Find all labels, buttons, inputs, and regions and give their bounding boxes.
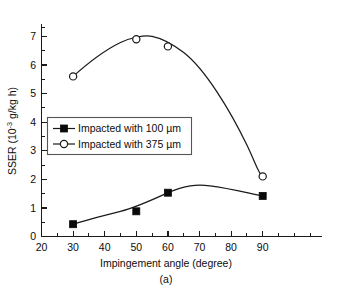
x-tick-label-20: 20	[36, 241, 48, 253]
x-tick-label-60: 60	[162, 241, 174, 253]
series-375um	[70, 36, 267, 180]
figure-panel-a: 0 1 2 3 4 5 6 7	[0, 0, 338, 290]
x-tick-label-80: 80	[225, 241, 237, 253]
y-tick-label-5: 5	[30, 87, 36, 99]
x-tick-labels: 20 30 40 50 60 70 80 90	[36, 241, 269, 253]
y-tick-label-1: 1	[30, 202, 36, 214]
x-tick-label-40: 40	[99, 241, 111, 253]
x-axis-ticks	[42, 231, 311, 237]
data-point-100um-30	[70, 221, 77, 228]
legend-label-100um: Impacted with 100 µm	[78, 122, 181, 134]
data-point-375um-90	[259, 173, 266, 180]
y-tick-label-3: 3	[30, 144, 36, 156]
panel-subtitle: (a)	[160, 273, 173, 285]
x-axis-title: Impingement angle (degree)	[100, 257, 232, 269]
svg-text:SSER (10-3 g/kg h): SSER (10-3 g/kg h)	[5, 87, 18, 175]
x-tick-label-90: 90	[257, 241, 269, 253]
y-axis-title-units: g/kg h)	[6, 87, 18, 122]
chart-legend: Impacted with 100 µm Impacted with 375 µ…	[48, 118, 192, 155]
data-point-100um-45	[133, 208, 140, 215]
y-tick-label-6: 6	[30, 59, 36, 71]
y-axis-title: SSER (10-3 g/kg h)	[5, 87, 18, 175]
chart-canvas: 0 1 2 3 4 5 6 7	[0, 0, 338, 290]
y-tick-labels: 0 1 2 3 4 5 6 7	[30, 30, 36, 242]
data-point-375um-60	[164, 43, 171, 50]
x-tick-label-70: 70	[194, 241, 206, 253]
y-axis-title-main: SSER (10	[6, 128, 18, 175]
legend-marker-filled-square-icon	[61, 125, 68, 132]
legend-label-375um: Impacted with 375 µm	[78, 138, 181, 150]
data-point-100um-90	[259, 192, 266, 199]
series-375um-line	[73, 36, 263, 177]
x-tick-label-50: 50	[130, 241, 142, 253]
y-tick-label-7: 7	[30, 30, 36, 42]
y-tick-label-4: 4	[30, 116, 36, 128]
series-100um	[70, 185, 267, 228]
x-tick-label-30: 30	[67, 241, 79, 253]
data-point-375um-30	[70, 73, 77, 80]
y-tick-label-2: 2	[30, 173, 36, 185]
data-point-375um-45	[133, 36, 140, 43]
data-point-100um-60	[164, 189, 171, 196]
y-axis-ticks	[42, 27, 48, 237]
legend-marker-open-circle-icon	[60, 140, 67, 147]
